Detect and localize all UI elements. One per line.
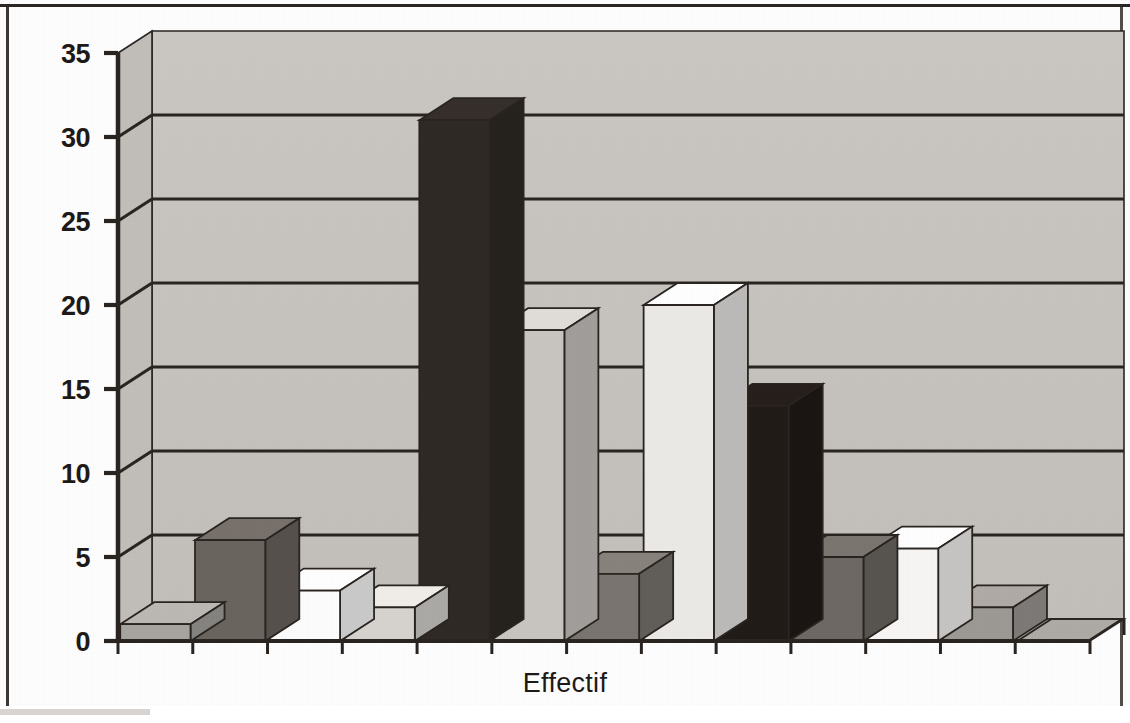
plot-side-wall: [118, 31, 152, 641]
y-tick-label-20: 20: [30, 293, 90, 320]
x-axis-label: Effectif: [0, 668, 1130, 699]
page-bottom-edge: [0, 706, 1130, 723]
y-tick-label-10: 10: [30, 461, 90, 488]
y-tick-label-25: 25: [30, 209, 90, 236]
bar-chart: [0, 0, 1130, 723]
y-tick-label-15: 15: [30, 377, 90, 404]
y-tick-label-30: 30: [30, 125, 90, 152]
y-tick-label-35: 35: [30, 41, 90, 68]
bar-column: [419, 98, 523, 641]
chart-canvas: [0, 0, 1130, 723]
scanned-page: 35 30 25 20 15 10 5 0 Effectif: [0, 0, 1130, 723]
y-tick-label-5: 5: [30, 545, 90, 572]
y-tick-label-0: 0: [30, 629, 90, 656]
